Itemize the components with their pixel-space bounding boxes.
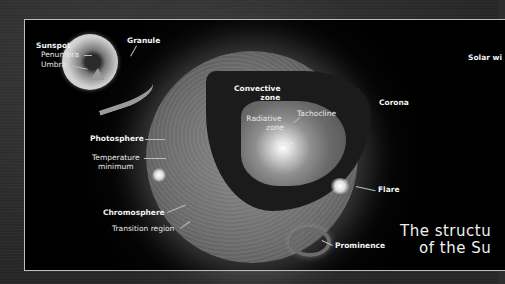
label-radiative-zone: Radiative zone [244,114,284,132]
label-radiative-line2: zone [244,123,284,132]
label-penumbra: Penumbra [41,50,79,59]
title-line1: The structu [400,222,491,240]
flare-glow-left [152,168,166,182]
diagram-title: The structu of the Su [400,223,491,257]
label-chromosphere: Chromosphere [103,208,165,217]
label-transition-region: Transition region [112,224,174,233]
title-line2: of the Su [419,239,491,257]
label-sunspot: Sunspot [36,41,71,50]
label-umbra: Umbra [41,60,66,69]
label-photosphere: Photosphere [90,134,144,143]
label-temp-line2: minimum [98,162,134,171]
label-corona: Corona [379,98,409,107]
label-core: Core [276,139,293,148]
label-granule: Granule [127,36,160,45]
label-tachocline: Tachocline [297,109,336,118]
leader-line [145,139,165,140]
leader-line [144,158,166,159]
label-convective-line1: Convective [234,84,281,93]
label-prominence: Prominence [335,241,385,250]
label-temperature-minimum: Temperature minimum [92,153,140,171]
label-convective-line2: zone [234,93,280,102]
leader-line [84,55,92,56]
label-radiative-line1: Radiative [246,114,281,123]
label-convective-zone: Convective zone [234,84,281,102]
label-temp-line1: Temperature [92,153,140,162]
label-flare: Flare [378,185,400,194]
flare-glow-right [330,178,350,194]
label-solar-wind: Solar wi [468,53,502,62]
sun-illustration [146,51,358,263]
